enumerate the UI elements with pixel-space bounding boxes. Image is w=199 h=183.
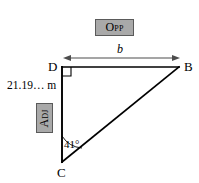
angle-label-c: 41°	[64, 139, 79, 150]
right-angle-marker-icon	[62, 67, 71, 76]
side-label-b: b	[117, 43, 123, 55]
tag-adjacent-label: Adj	[37, 109, 52, 127]
vertex-label-b: B	[184, 60, 193, 73]
tag-adjacent: Adj	[36, 103, 53, 133]
vertex-label-c: C	[57, 166, 66, 179]
side-length-label-adjacent: 21.19… m	[7, 80, 56, 92]
dimension-arrowhead-left	[63, 55, 71, 61]
tag-opposite-label: Opp	[105, 20, 123, 35]
tag-opposite: Opp	[95, 19, 134, 36]
vertex-label-d: D	[48, 60, 57, 73]
triangle-figure: D B C b 21.19… m 41° Opp Adj	[0, 0, 199, 183]
dimension-arrowhead-right	[172, 55, 180, 61]
